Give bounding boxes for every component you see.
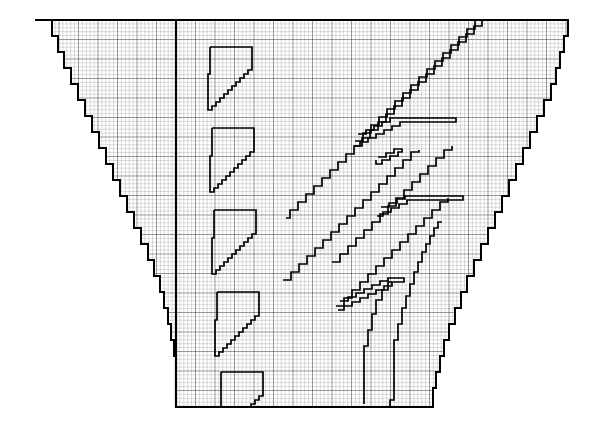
pattern-diagram-canvas [0, 0, 594, 427]
pattern-diagram-svg [0, 0, 594, 427]
